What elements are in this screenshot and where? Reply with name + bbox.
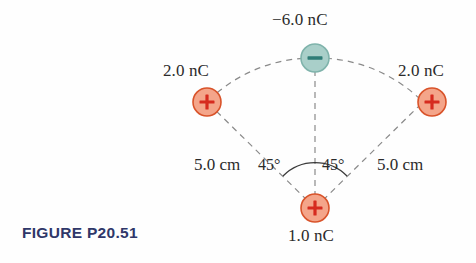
charge-arc-left: [209, 58, 315, 100]
plus-icon: [205, 95, 208, 110]
charge-bottom-positive: [301, 194, 329, 222]
charge-top-negative: [301, 44, 329, 72]
charge-label-right-positive: 2.0 nC: [398, 61, 444, 81]
figure-caption: FIGURE P20.51: [22, 224, 138, 242]
angle-label-right: 45°: [322, 156, 344, 174]
charge-right-positive: [418, 88, 446, 116]
charge-left-positive: [193, 88, 221, 116]
angle-label-left: 45°: [258, 156, 280, 174]
plus-icon: [313, 201, 316, 216]
minus-icon: [308, 56, 323, 59]
charge-label-top-negative: −6.0 nC: [272, 10, 328, 30]
charge-label-left-positive: 2.0 nC: [163, 61, 209, 81]
distance-label-left: 5.0 cm: [194, 155, 240, 175]
plus-icon: [430, 95, 433, 110]
figure-container: −6.0 nC 2.0 nC 2.0 nC 1.0 nC 5.0 cm 5.0 …: [0, 0, 476, 263]
charge-label-bottom-positive: 1.0 nC: [288, 226, 334, 246]
distance-label-right: 5.0 cm: [377, 155, 423, 175]
